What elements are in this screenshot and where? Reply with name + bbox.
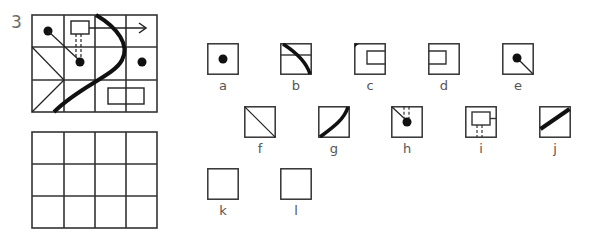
option-i-tile [465, 106, 497, 138]
option-label: k [207, 204, 239, 218]
option-l-tile [280, 168, 312, 200]
option-h[interactable]: h [391, 106, 423, 138]
option-g-tile [318, 106, 350, 138]
option-label: f [244, 142, 276, 156]
small-rectangle [71, 21, 89, 34]
option-j[interactable]: j [539, 106, 571, 138]
answer-grid [32, 132, 157, 228]
option-a-tile [207, 43, 239, 75]
option-label: l [280, 204, 312, 218]
option-c-tile [354, 43, 386, 75]
option-label: a [207, 79, 239, 93]
option-label: g [318, 142, 350, 156]
option-label: d [428, 79, 460, 93]
dot-shape [138, 58, 147, 67]
option-label: h [391, 142, 423, 156]
option-e-tile [502, 43, 534, 75]
option-j-tile [539, 106, 571, 138]
option-label: c [354, 79, 386, 93]
option-c[interactable]: c [354, 43, 386, 75]
option-l[interactable]: l [280, 168, 312, 200]
option-f[interactable]: f [244, 106, 276, 138]
option-d[interactable]: d [428, 43, 460, 75]
option-g[interactable]: g [318, 106, 350, 138]
option-i[interactable]: i [465, 106, 497, 138]
option-b[interactable]: b [280, 43, 312, 75]
option-k[interactable]: k [207, 168, 239, 200]
option-f-tile [244, 106, 276, 138]
option-e[interactable]: e [502, 43, 534, 75]
option-d-tile [428, 43, 460, 75]
option-label: j [539, 142, 571, 156]
option-b-tile [280, 43, 312, 75]
puzzle-figures [32, 15, 147, 112]
option-h-tile [391, 106, 423, 138]
dot-shape [76, 58, 85, 67]
option-a[interactable]: a [207, 43, 239, 75]
option-label: e [502, 79, 534, 93]
option-label: i [465, 142, 497, 156]
option-k-tile [207, 168, 239, 200]
option-label: b [280, 79, 312, 93]
